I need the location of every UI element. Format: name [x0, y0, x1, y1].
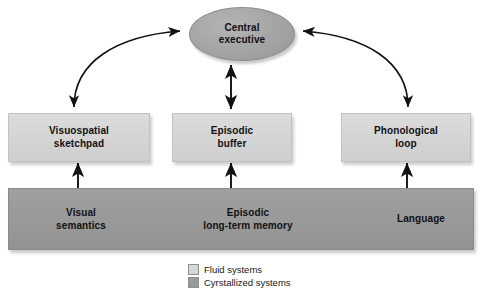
legend: Fluid systems Cyrstallized systems — [188, 264, 291, 288]
node-phonological-loop-label: Phonological loop — [374, 125, 438, 150]
node-episodic-buffer-label: Episodic buffer — [211, 125, 253, 150]
legend-item-crystallized-systems: Cyrstallized systems — [188, 277, 291, 288]
node-visuospatial-sketchpad: Visuospatial sketchpad — [8, 113, 150, 162]
node-episodic-long-term-memory-label: Episodic long-term memory — [183, 207, 313, 232]
node-visuospatial-sketchpad-label: Visuospatial sketchpad — [49, 125, 109, 150]
connector-sketchpad-central — [74, 31, 180, 107]
connector-phonological-central — [303, 31, 408, 107]
legend-swatch-fluid-icon — [188, 264, 199, 275]
node-phonological-loop: Phonological loop — [341, 113, 471, 162]
diagram-canvas: Central executive Visuospatial sketchpad… — [0, 0, 483, 298]
legend-item-fluid-systems-label: Fluid systems — [204, 264, 262, 275]
node-episodic-buffer: Episodic buffer — [172, 113, 292, 162]
legend-item-fluid-systems: Fluid systems — [188, 264, 291, 275]
legend-item-crystallized-systems-label: Cyrstallized systems — [204, 277, 291, 288]
node-language-label: Language — [371, 213, 471, 226]
node-central-executive: Central executive — [189, 7, 295, 61]
node-central-executive-label: Central executive — [219, 22, 266, 47]
node-crystallized-bar: Visual semantics Episodic long-term memo… — [8, 188, 474, 250]
node-visual-semantics-label: Visual semantics — [31, 207, 131, 232]
legend-swatch-crystallized-icon — [188, 277, 199, 288]
